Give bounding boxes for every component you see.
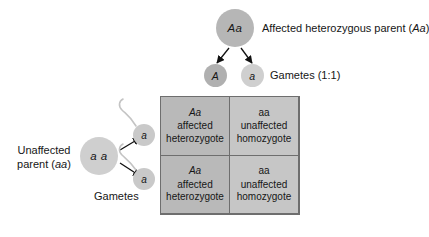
cell-genotype: aa: [258, 165, 269, 178]
affected-parent-label-text: Affected heterozygous parent (: [262, 22, 412, 34]
unaffected-parent-label-line1: Unaffected: [17, 144, 70, 156]
cell-phenotype: unaffected: [241, 179, 288, 192]
left-gametes-label: Gametes: [94, 189, 139, 203]
cell-zygosity: heterozygote: [166, 133, 224, 146]
affected-parent-label-genotype: Aa: [412, 22, 425, 34]
unaffected-parent-circle: a a: [80, 137, 118, 175]
punnett-square-grid: Aa affected heterozygote aa unaffected h…: [160, 96, 300, 215]
cell-genotype: Aa: [189, 107, 201, 120]
cell-genotype: aa: [258, 107, 269, 120]
punnett-cell: Aa affected heterozygote: [160, 96, 230, 156]
unaffected-parent-label-close: ): [67, 158, 71, 170]
cell-zygosity: homozygote: [237, 133, 291, 146]
gamete-circle-A: A: [204, 64, 227, 87]
sperm-gamete-2: a: [133, 168, 155, 190]
unaffected-parent-label-genotype: aa: [55, 158, 67, 170]
cell-zygosity: heterozygote: [166, 191, 224, 204]
affected-parent-circle: Aa: [216, 9, 254, 47]
cell-phenotype: affected: [177, 120, 212, 133]
affected-parent-label: Affected heterozygous parent (Aa): [262, 21, 429, 35]
unaffected-parent-label: Unaffectedparent (aa): [12, 143, 76, 171]
sperm-gamete-1: a: [133, 124, 155, 146]
gamete-circle-a: a: [241, 64, 264, 87]
cell-phenotype: affected: [177, 179, 212, 192]
unaffected-parent-label-prefix: parent (: [17, 158, 55, 170]
top-gametes-label: Gametes (1:1): [270, 68, 340, 82]
cell-zygosity: homozygote: [237, 191, 291, 204]
punnett-cell: aa unaffected homozygote: [229, 155, 299, 215]
punnett-cell: aa unaffected homozygote: [229, 96, 299, 156]
punnett-cell: Aa affected heterozygote: [160, 155, 230, 215]
cell-genotype: Aa: [189, 165, 201, 178]
cell-phenotype: unaffected: [241, 120, 288, 133]
